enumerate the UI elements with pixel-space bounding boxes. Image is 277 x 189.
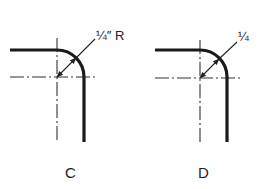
figure-d: ¼ D bbox=[155, 29, 249, 181]
leader-line bbox=[76, 39, 95, 58]
figure-label-c: C bbox=[65, 164, 76, 181]
radius-dimension-label: ¼ bbox=[238, 29, 249, 44]
figure-c: ¼″ R C bbox=[10, 28, 124, 181]
leader-line bbox=[219, 42, 237, 59]
drawing-canvas: ¼″ R C ¼ D bbox=[0, 0, 277, 189]
radius-arrow bbox=[57, 58, 76, 77]
radius-arrow bbox=[200, 59, 219, 78]
rounded-corner-outline bbox=[10, 50, 84, 142]
radius-dimension-label: ¼″ R bbox=[96, 28, 124, 43]
rounded-corner-outline bbox=[155, 50, 227, 142]
figure-label-d: D bbox=[198, 164, 209, 181]
